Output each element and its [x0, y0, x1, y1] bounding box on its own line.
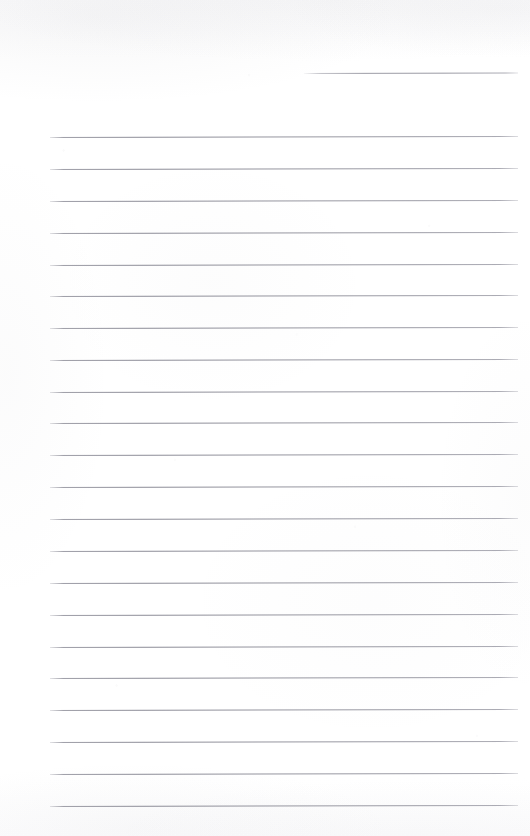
- rule-line-17: [50, 614, 518, 616]
- rule-line-8: [50, 327, 518, 329]
- rule-line-1-partial: [304, 73, 518, 74]
- ruled-lines-group: [0, 0, 530, 836]
- rule-line-2: [50, 136, 518, 138]
- rule-line-12: [50, 454, 518, 456]
- rule-line-19: [50, 677, 518, 679]
- rule-line-16: [50, 582, 518, 584]
- rule-line-6: [50, 264, 518, 266]
- rule-line-9: [50, 359, 518, 361]
- rule-line-13: [50, 486, 518, 488]
- rule-line-3: [50, 168, 518, 170]
- rule-line-14: [50, 518, 518, 520]
- rule-line-20: [50, 709, 518, 711]
- rule-line-10: [50, 391, 518, 393]
- rule-line-4: [50, 200, 518, 202]
- rule-line-11: [50, 422, 518, 424]
- scanned-page: [0, 0, 530, 836]
- rule-line-7: [50, 295, 518, 297]
- rule-line-5: [50, 232, 518, 234]
- rule-line-23: [50, 805, 518, 807]
- rule-line-15: [50, 550, 518, 552]
- rule-line-21: [50, 741, 518, 743]
- rule-line-22: [50, 773, 518, 775]
- rule-line-18: [50, 646, 518, 648]
